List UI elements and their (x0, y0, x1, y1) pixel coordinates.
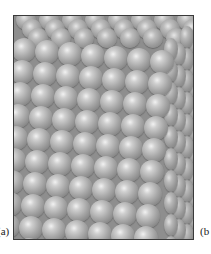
sphere-atom (42, 218, 66, 240)
sphere-atom (115, 180, 139, 204)
sphere-atom (35, 40, 59, 64)
sphere-atom (88, 222, 112, 240)
sphere-atom (65, 220, 89, 240)
sphere-atom (117, 158, 141, 182)
sphere-atom (94, 156, 118, 180)
crystal-front-face (14, 16, 193, 239)
sphere-atom (127, 48, 151, 72)
sphere-atom (25, 150, 49, 174)
sphere-atom (31, 84, 55, 108)
sphere-atom (111, 224, 135, 240)
sphere-atom (98, 112, 122, 136)
sphere-atom (146, 94, 170, 118)
sphere-atom (144, 116, 168, 140)
sphere-atom (136, 204, 160, 228)
sphere-atom (150, 50, 174, 74)
sphere-atom (121, 114, 145, 138)
sphere-atom (69, 176, 93, 200)
sphere-atom (13, 104, 30, 128)
sphere-atom (48, 152, 72, 176)
sphere-atom (90, 200, 114, 224)
sphere-atom (52, 108, 76, 132)
sphere-atom (81, 44, 105, 68)
sphere-atom (33, 62, 57, 86)
sphere-atom (100, 90, 124, 114)
sphere-atom (134, 226, 158, 240)
sphere-atom (125, 70, 149, 94)
sphere-atom (29, 106, 53, 130)
sphere-atom (13, 38, 36, 62)
sphere-atom (102, 68, 126, 92)
panel-label-a: (a) (0, 226, 9, 237)
sphere-atom (75, 110, 99, 134)
sphere-atom (104, 46, 128, 70)
sphere-atom (123, 92, 147, 116)
sphere-atom (17, 238, 41, 240)
sphere-atom (56, 64, 80, 88)
sphere-atom (73, 132, 97, 156)
sphere-atom (13, 236, 18, 240)
sphere-atom (92, 178, 116, 202)
sphere-atom (46, 174, 70, 198)
sphere-atom (13, 82, 32, 106)
sphere-atom (13, 60, 34, 84)
sphere-atom (67, 198, 91, 222)
crystal-figure-panel (13, 15, 194, 240)
sphere-atom (77, 88, 101, 112)
sphere-atom (140, 160, 164, 184)
sphere-atom (19, 216, 43, 240)
sphere-atom (138, 182, 162, 206)
sphere-atom (21, 194, 45, 218)
sphere-atom (50, 130, 74, 154)
sphere-atom (27, 128, 51, 152)
sphere-atom (119, 136, 143, 160)
sphere-atom (79, 66, 103, 90)
sphere-atom (148, 72, 172, 96)
panel-label-b: (b (200, 226, 209, 237)
sphere-atom (142, 138, 166, 162)
sphere-atom (54, 86, 78, 110)
sphere-atom (44, 196, 68, 220)
sphere-atom (58, 42, 82, 66)
sphere-atom (23, 172, 47, 196)
sphere-atom (113, 202, 137, 226)
sphere-atom (13, 126, 28, 150)
sphere-atom (71, 154, 95, 178)
sphere-atom (96, 134, 120, 158)
